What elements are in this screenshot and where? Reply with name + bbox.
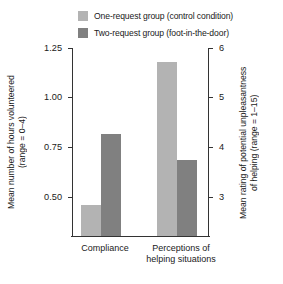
- bottom-axis-line: [71, 236, 210, 237]
- category-label-perceptions: Perceptions of helping situations: [144, 243, 218, 265]
- plot-area: 0.50 0.75 1.00 1.25 3 4 5 6: [72, 48, 209, 237]
- bar-compliance-two-request: [101, 134, 121, 236]
- legend-swatch-light-icon: [78, 11, 88, 21]
- left-tick-label-1: 0.75: [44, 142, 62, 152]
- right-axis-title: Mean rating of potential unpleasantness …: [238, 48, 260, 238]
- category-label-compliance: Compliance: [68, 243, 142, 254]
- right-tick-label-0: 3: [219, 192, 224, 202]
- right-axis-line: [208, 48, 209, 237]
- legend-swatch-dark-icon: [78, 28, 88, 38]
- left-tick-2: 1.00: [68, 97, 73, 98]
- left-axis-title: Mean number of hours volunteered (range …: [6, 52, 28, 232]
- right-tick-label-2: 5: [219, 92, 224, 102]
- right-tick-label-1: 4: [219, 142, 224, 152]
- left-axis-title-line1: Mean number of hours volunteered: [6, 75, 16, 209]
- right-tick-0: 3: [208, 197, 213, 198]
- right-axis-title-line1: Mean rating of potential unpleasantness: [238, 67, 248, 219]
- left-axis-line: [72, 48, 73, 237]
- left-tick-label-2: 1.00: [44, 92, 62, 102]
- legend-label-one-request: One-request group (control condition): [94, 11, 233, 21]
- left-tick-label-0: 0.50: [44, 192, 62, 202]
- left-tick-label-3: 1.25: [44, 43, 62, 53]
- legend-item-one-request: One-request group (control condition): [78, 8, 278, 23]
- right-tick-label-3: 6: [219, 43, 224, 53]
- bar-perceptions-one-request: [157, 62, 177, 236]
- bar-chart-figure: One-request group (control condition) Tw…: [0, 0, 283, 284]
- left-axis-title-line2: (range = 0–4): [17, 52, 28, 232]
- left-tick-0: 0.50: [68, 197, 73, 198]
- left-tick-1: 0.75: [68, 147, 73, 148]
- right-tick-2: 5: [208, 97, 213, 98]
- right-tick-1: 4: [208, 147, 213, 148]
- right-tick-3: 6: [208, 48, 213, 49]
- chart-legend: One-request group (control condition) Tw…: [78, 8, 278, 42]
- right-axis-title-line2: of helping (range = 1–15): [249, 48, 260, 238]
- bar-perceptions-two-request: [177, 160, 197, 236]
- legend-item-two-request: Two-request group (foot-in-the-door): [78, 25, 278, 40]
- legend-label-two-request: Two-request group (foot-in-the-door): [94, 28, 229, 38]
- bar-compliance-one-request: [81, 205, 101, 236]
- left-tick-3: 1.25: [68, 48, 73, 49]
